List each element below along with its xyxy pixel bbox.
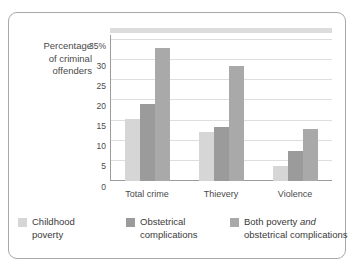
bar[interactable] xyxy=(214,127,229,181)
bar[interactable] xyxy=(288,151,303,181)
legend-swatch-icon xyxy=(126,218,135,227)
plot-top-band xyxy=(110,28,332,33)
legend-label-line-2: complications xyxy=(140,229,198,242)
y-tick-label: 35% xyxy=(70,42,106,51)
legend-label-line-1: Childhood xyxy=(32,216,75,229)
bar-group xyxy=(125,36,170,181)
y-tick-label: 20 xyxy=(70,102,106,111)
bar[interactable] xyxy=(140,104,155,181)
bar[interactable] xyxy=(155,48,170,181)
legend-label-line-1: Obstetrical xyxy=(140,216,198,229)
y-tick-label: 5 xyxy=(70,162,106,171)
plot-canvas xyxy=(110,35,332,181)
legend-label: Both poverty andobstetrical complication… xyxy=(244,216,348,241)
legend-swatch-icon xyxy=(230,218,239,227)
y-tick-label: 0 xyxy=(70,183,106,192)
y-tick-label: 25 xyxy=(70,82,106,91)
legend-label-emphasis: and xyxy=(300,216,316,227)
legend-label: Obstetricalcomplications xyxy=(140,216,198,241)
x-tick-label: Violence xyxy=(258,188,332,200)
x-axis-category-labels: Total crimeThieveryViolence xyxy=(110,188,332,202)
plot-area xyxy=(110,28,332,188)
legend-label-line-1: Both poverty and xyxy=(244,216,348,229)
bar[interactable] xyxy=(199,132,214,181)
y-tick-label: 15 xyxy=(70,122,106,131)
y-axis-tick-labels: 05101520253035% xyxy=(62,35,106,195)
legend-label: Childhoodpoverty xyxy=(32,216,75,241)
bar[interactable] xyxy=(303,129,318,181)
y-tick-label: 30 xyxy=(70,62,106,71)
legend-label-line-2: obstetrical complications xyxy=(244,229,348,242)
cropped-header-text xyxy=(60,0,310,7)
bar-group xyxy=(273,36,318,181)
figure-container: Percentage of criminal offenders 0510152… xyxy=(0,0,358,274)
bar[interactable] xyxy=(273,166,288,181)
bar-group xyxy=(199,36,244,181)
legend-swatch-icon xyxy=(18,218,27,227)
y-tick-label: 10 xyxy=(70,142,106,151)
x-tick-label: Total crime xyxy=(110,188,184,200)
chart-legend: ChildhoodpovertyObstetricalcomplications… xyxy=(18,216,338,250)
x-tick-label: Thievery xyxy=(184,188,258,200)
bar[interactable] xyxy=(125,119,140,181)
bar[interactable] xyxy=(229,66,244,181)
legend-label-line-2: poverty xyxy=(32,229,75,242)
